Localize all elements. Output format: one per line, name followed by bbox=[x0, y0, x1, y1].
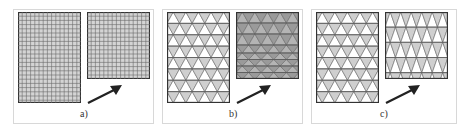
panel-label-a: a) bbox=[80, 108, 88, 119]
panel-label-b: b) bbox=[229, 108, 237, 119]
arrow-up-right-icon bbox=[235, 83, 275, 105]
triangle-mesh-remeshed bbox=[385, 12, 448, 79]
triangle-mesh-compressed bbox=[236, 12, 299, 79]
panel-a: a) bbox=[13, 9, 154, 124]
panel-label-c: c) bbox=[380, 108, 388, 119]
triangle-mesh-original bbox=[167, 12, 230, 103]
panel-c: c) bbox=[311, 9, 457, 124]
panel-b: b) bbox=[162, 9, 303, 124]
quad-mesh-compressed bbox=[87, 12, 150, 79]
triangle-mesh-original bbox=[316, 12, 379, 103]
arrow-up-right-icon bbox=[384, 83, 424, 105]
quad-mesh-original bbox=[18, 12, 81, 103]
arrow-up-right-icon bbox=[86, 83, 126, 105]
